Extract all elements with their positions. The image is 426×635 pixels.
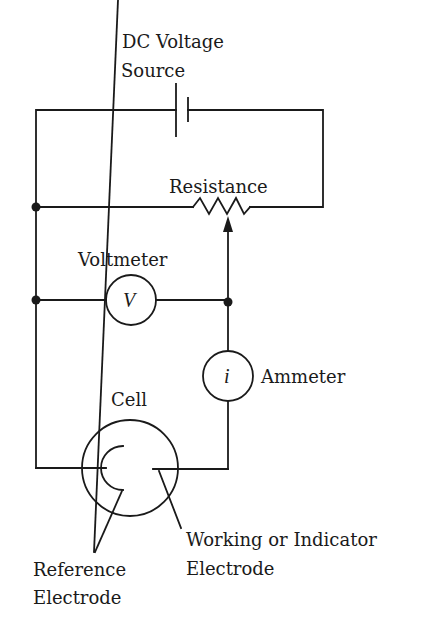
resistance-label: Resistance (169, 176, 268, 197)
working-electrode-label-line2: Electrode (186, 558, 274, 579)
reference-leader-line (95, 491, 122, 552)
voltmeter-symbol: V (123, 289, 138, 311)
cell-label: Cell (111, 389, 147, 410)
ammeter-symbol: i (224, 365, 230, 387)
junction-node (32, 203, 41, 212)
resistor-zigzag (193, 198, 250, 214)
reference-electrode-label-line2: Electrode (33, 587, 121, 608)
wiper-arrow-icon (223, 216, 233, 232)
working-electrode-label-line1: Working or Indicator (186, 529, 377, 550)
dc-source-label-line1: DC Voltage (122, 31, 224, 52)
circuit-diagram: DC Voltage Source Resistance V Voltmeter… (0, 0, 426, 635)
voltmeter: V (36, 275, 228, 325)
working-leader-line (159, 471, 181, 528)
dc-voltage-source (176, 84, 188, 136)
voltmeter-label: Voltmeter (77, 249, 168, 270)
ammeter-label: Ammeter (260, 366, 346, 387)
reference-leader-line (94, 0, 118, 552)
cell (36, 420, 228, 516)
ammeter: i (203, 302, 253, 469)
dc-source-label-line2: Source (121, 60, 185, 81)
reference-electrode-label-line1: Reference (33, 559, 126, 580)
junction-node (32, 296, 41, 305)
